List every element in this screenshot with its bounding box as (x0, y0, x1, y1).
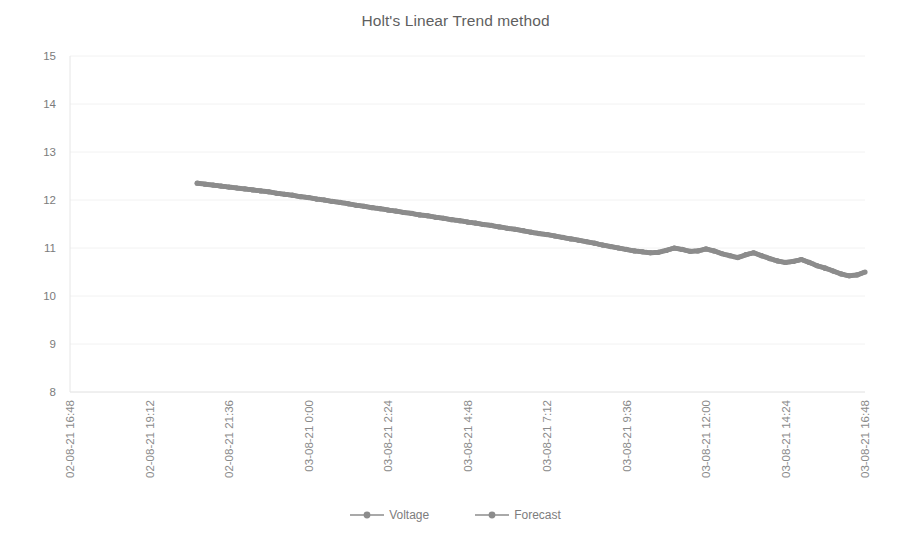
data-point-marker (417, 212, 422, 217)
data-point-marker (552, 233, 557, 238)
data-point-marker (854, 272, 859, 277)
data-point-marker (600, 243, 605, 248)
data-point-marker (688, 249, 693, 254)
data-point-marker (457, 218, 462, 223)
legend-item-forecast[interactable]: Forecast (475, 508, 561, 522)
data-point-marker (314, 196, 319, 201)
data-point-marker (640, 249, 645, 254)
data-point-marker (862, 269, 867, 274)
data-point-marker (211, 183, 216, 188)
data-point-marker (330, 199, 335, 204)
x-axis-tick-labels: 02-08-21 16:4802-08-21 19:1202-08-21 21:… (64, 399, 871, 478)
x-axis-tick-label: 03-08-21 0:00 (303, 400, 315, 472)
data-point-marker (274, 191, 279, 196)
y-axis-tick-label: 10 (43, 290, 56, 302)
data-point-marker (433, 215, 438, 220)
data-point-marker (711, 248, 716, 253)
data-point-marker (695, 248, 700, 253)
x-axis-tick-label: 03-08-21 7:12 (541, 400, 553, 472)
data-point-marker (346, 201, 351, 206)
legend-item-voltage[interactable]: Voltage (350, 508, 429, 522)
x-axis-tick-label: 02-08-21 21:36 (223, 400, 235, 478)
data-point-marker (258, 188, 263, 193)
data-point-marker (807, 260, 812, 265)
data-point-marker (751, 250, 756, 255)
x-axis-tick-label: 03-08-21 14:24 (780, 399, 792, 478)
data-point-marker (489, 223, 494, 228)
data-point-marker (195, 181, 200, 186)
data-point-marker (759, 253, 764, 258)
data-point-marker (783, 260, 788, 265)
data-point-marker (680, 247, 685, 252)
legend-line-marker-icon (475, 509, 509, 521)
data-point-marker (608, 244, 613, 249)
data-point-marker (632, 248, 637, 253)
data-point-marker (672, 245, 677, 250)
data-point-marker (831, 268, 836, 273)
data-point-marker (505, 226, 510, 231)
y-axis-tick-label: 12 (43, 194, 56, 206)
plot-area: 89101112131415 02-08-21 16:4802-08-21 19… (0, 0, 911, 500)
data-point-marker (354, 203, 359, 208)
data-point-marker (218, 183, 223, 188)
data-point-marker (735, 255, 740, 260)
chart-legend: Voltage Forecast (0, 508, 911, 522)
data-point-marker (592, 241, 597, 246)
chart-container: Holt's Linear Trend method 8910111213141… (0, 0, 911, 550)
data-point-marker (250, 187, 255, 192)
y-axis-tick-label: 8 (50, 386, 56, 398)
data-point-marker (362, 204, 367, 209)
y-axis-tick-label: 11 (44, 242, 56, 254)
data-point-marker (576, 238, 581, 243)
data-point-marker (624, 247, 629, 252)
legend-line-marker-icon (350, 509, 384, 521)
x-axis-tick-label: 02-08-21 19:12 (144, 400, 156, 478)
data-point-marker (648, 250, 653, 255)
data-point-marker (719, 251, 724, 256)
x-axis-tick-label: 03-08-21 2:24 (382, 399, 394, 471)
data-point-marker (203, 182, 208, 187)
data-point-marker (775, 258, 780, 263)
data-point-marker (425, 213, 430, 218)
data-point-marker (338, 200, 343, 205)
data-point-marker (521, 228, 526, 233)
data-point-marker (393, 208, 398, 213)
data-point-marker (290, 193, 295, 198)
data-point-marker (385, 207, 390, 212)
x-axis-tick-label: 03-08-21 4:48 (462, 400, 474, 472)
legend-label-forecast: Forecast (514, 508, 561, 522)
data-point-marker (513, 227, 518, 232)
data-point-marker (584, 239, 589, 244)
x-axis-tick-label: 02-08-21 16:48 (64, 400, 76, 478)
y-axis-tick-labels: 89101112131415 (43, 50, 56, 398)
data-point-marker (767, 256, 772, 261)
y-axis-tick-label: 9 (50, 338, 56, 350)
data-point-marker (322, 197, 327, 202)
data-point-marker (226, 184, 231, 189)
data-point-marker (568, 236, 573, 241)
data-point-marker (370, 205, 375, 210)
data-series-group (195, 181, 868, 279)
data-point-marker (743, 252, 748, 257)
y-axis-tick-label: 13 (43, 146, 56, 158)
data-point-marker (664, 248, 669, 253)
x-axis-tick-label: 03-08-21 12:00 (700, 400, 712, 478)
data-point-marker (847, 273, 852, 278)
data-point-marker (465, 219, 470, 224)
data-point-marker (727, 253, 732, 258)
data-point-marker (839, 271, 844, 276)
data-point-marker (560, 235, 565, 240)
y-axis-tick-label: 14 (43, 98, 56, 110)
data-point-marker (815, 263, 820, 268)
data-point-marker (449, 217, 454, 222)
data-point-marker (799, 257, 804, 262)
data-point-marker (298, 194, 303, 199)
data-point-marker (441, 216, 446, 221)
data-point-marker (529, 230, 534, 235)
legend-label-voltage: Voltage (389, 508, 429, 522)
data-point-marker (234, 185, 239, 190)
x-axis-tick-label: 03-08-21 9:36 (621, 400, 633, 472)
data-point-marker (616, 245, 621, 250)
data-point-marker (823, 266, 828, 271)
data-point-marker (377, 206, 382, 211)
